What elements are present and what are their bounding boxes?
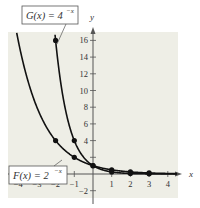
data-point	[128, 171, 133, 176]
x-axis-label: x	[188, 169, 193, 179]
x-tick-label: −1	[70, 179, 79, 189]
g-label: G(x) = 4	[26, 10, 64, 22]
x-tick-label: 4	[166, 179, 171, 189]
data-point	[72, 138, 77, 143]
f-label: F(x) = 2	[12, 170, 49, 182]
y-tick-label: 6	[84, 119, 88, 129]
y-tick-label: 14	[80, 52, 89, 62]
x-tick-label: 3	[147, 179, 151, 189]
data-point	[53, 138, 58, 143]
g-label-exponent: −x	[66, 7, 75, 15]
y-tick-label: 12	[80, 69, 89, 79]
x-tick-label: 2	[128, 179, 132, 189]
data-point	[72, 155, 77, 160]
y-axis-label: y	[89, 12, 94, 22]
y-tick-label: 16	[80, 35, 89, 45]
exponential-chart: xy−4−3−2−11234−246810121416 G(x) = 4−xF(…	[0, 0, 200, 208]
data-point	[90, 163, 95, 168]
y-tick-label: 10	[80, 86, 89, 96]
data-point	[109, 169, 114, 174]
f-label-exponent: −x	[54, 167, 63, 175]
y-tick-label: −2	[79, 186, 88, 196]
data-point	[147, 171, 152, 176]
y-tick-label: 8	[84, 102, 88, 112]
y-axis-arrow-icon	[91, 27, 96, 34]
x-tick-label: 1	[110, 179, 114, 189]
